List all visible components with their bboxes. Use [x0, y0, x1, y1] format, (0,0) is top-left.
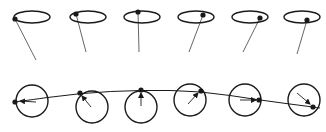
bottom-item-3: [125, 87, 157, 123]
bottom-item-4: [174, 84, 206, 116]
tip-dot: [73, 11, 78, 16]
rotation-circle: [288, 84, 320, 116]
top-item-4: [178, 11, 214, 52]
bottom-row-rotation: [12, 84, 320, 123]
tip-dot: [12, 99, 17, 104]
precession-ellipse: [124, 11, 160, 23]
tip-dot: [310, 104, 315, 109]
vector-line: [297, 20, 307, 54]
tip-dot: [257, 15, 262, 20]
precession-ellipse: [178, 11, 214, 23]
radial-arrow-icon: [188, 93, 198, 104]
top-item-6: [284, 11, 320, 54]
bottom-item-1: [12, 85, 48, 117]
tip-dot: [12, 16, 17, 21]
bottom-item-5: [229, 84, 262, 116]
top-item-5: [232, 11, 268, 52]
tip-dot: [256, 97, 261, 102]
precession-ellipse: [14, 11, 50, 23]
vector-line: [138, 12, 139, 52]
tip-dot: [77, 90, 82, 95]
tip-dot: [135, 9, 140, 14]
top-item-3: [124, 9, 160, 52]
vector-line: [15, 19, 36, 60]
vector-line: [76, 14, 86, 52]
tip-dot: [200, 12, 205, 17]
precession-diagram: [0, 0, 326, 132]
bottom-item-2: [76, 90, 108, 123]
top-item-2: [70, 11, 106, 52]
top-item-1: [12, 11, 50, 60]
precession-ellipse: [284, 11, 320, 23]
bottom-item-6: [288, 84, 320, 116]
radial-arrow-icon: [20, 101, 36, 102]
radial-arrow-icon: [82, 96, 91, 107]
top-row-precession: [12, 9, 320, 60]
rotation-circle: [76, 91, 108, 123]
tip-dot: [304, 17, 309, 22]
radial-arrow-icon: [297, 93, 310, 104]
tip-dot: [198, 88, 203, 93]
tip-dot: [138, 87, 143, 92]
diagram-canvas: [0, 0, 326, 132]
vector-line: [189, 15, 203, 52]
trajectory-curve: [15, 90, 320, 108]
precession-ellipse: [232, 11, 268, 23]
